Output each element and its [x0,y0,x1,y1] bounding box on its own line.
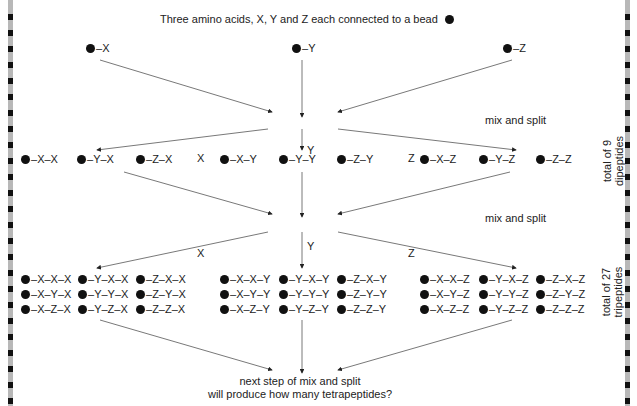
peptide-sequence: X–X [37,153,58,165]
peptide-sequence: X–X–X [37,273,71,285]
bead-icon [420,305,429,314]
bead-icon [86,44,95,53]
tripeptide-total-label: total of 27 tripeptides [600,239,626,345]
bead-icon [536,275,545,284]
bead-icon [479,155,488,164]
bead-icon [292,44,301,53]
bead-icon [78,290,87,299]
mix-split-label-2: mix and split [485,212,546,225]
bead-icon [78,275,87,284]
arrow-split1-x [97,129,268,150]
peptide-sequence: Y–X–Y [295,273,329,285]
bead-icon [337,155,346,164]
arrow-split2-z [338,232,516,268]
start-bead-y: –Y [292,42,315,55]
bead-icon [536,290,545,299]
peptide-item: –Y–Z–Z [479,303,528,316]
peptide-sequence: X–Y–Y [236,288,270,300]
arrows-layer [0,0,637,406]
peptide-sequence: Y–Y–Y [295,288,329,300]
peptide-item: –X–Y–Z [420,288,470,301]
branch-label-z-2: Z [408,247,415,259]
peptide-item: –Z–Z–Z [536,303,585,316]
peptide-sequence: X–Z–Y [236,303,270,315]
dipeptide-total-label: total of 9 dipeptides [601,113,627,209]
total-line-2: dipeptides [613,113,625,209]
peptide-sequence: X–Z [436,153,456,165]
bead-icon [279,290,288,299]
peptide-item: –Y–Y–X [78,288,128,301]
bead-icon [136,305,145,314]
peptide-item: –X–X–Y [220,273,270,286]
diagram-title: Three amino acids, X, Y and Z each conne… [160,13,455,26]
peptide-item: –Y–X–X [78,273,128,286]
peptide-sequence: X–Y–X [37,288,71,300]
amino-acid-label: X [102,42,109,54]
amino-acid-label: Z [519,42,526,54]
bead-icon [337,290,346,299]
peptide-sequence: Y–Y [295,153,316,165]
peptide-sequence: Y–X–X [94,273,128,285]
bead-icon [279,155,288,164]
start-bead-z: –Z [503,42,526,55]
bead-icon [136,275,145,284]
peptide-item: –Z–Z [536,153,572,166]
peptide-sequence: Z–Y–Y [353,288,387,300]
peptide-item: –Y–Y [279,153,316,166]
peptide-sequence: X–Z–Z [436,303,469,315]
peptide-sequence: X–X–Y [236,273,270,285]
bead-icon [136,290,145,299]
arrow-dipep-x-to-mix2 [124,172,272,214]
arrow-z-to-mix1 [338,60,512,112]
peptide-sequence: Z–Z [552,153,572,165]
bead-icon [536,305,545,314]
mix-split-label-1: mix and split [485,114,546,127]
peptide-item: –X–Z–Z [420,303,469,316]
peptide-sequence: Y–X [93,153,114,165]
bead-icon [21,155,30,164]
bead-icon [220,290,229,299]
peptide-sequence: Z–Y–Z [552,288,585,300]
bead-icon [21,275,30,284]
bead-icon [503,44,512,53]
bead-icon [479,290,488,299]
peptide-item: –Z–Y–X [136,288,186,301]
peptide-item: –X–X–X [21,273,71,286]
arrow-split2-x [97,232,268,268]
peptide-sequence: Z–X–X [152,273,186,285]
bead-icon [279,305,288,314]
peptide-item: –Y–Z–X [78,303,128,316]
peptide-item: –Y–X–Z [479,273,529,286]
bead-icon [445,15,454,24]
bead-icon [420,155,429,164]
peptide-sequence: Z–Z–X [152,303,185,315]
bead-icon [420,275,429,284]
peptide-item: –Y–Z [479,153,515,166]
peptide-sequence: Y–Z–X [94,303,128,315]
peptide-sequence: Y–Y–Z [495,288,529,300]
peptide-sequence: X–X–Z [436,273,470,285]
total-line-1: total of 27 [600,239,612,345]
peptide-item: –Y–Z–Y [279,303,329,316]
title-text: Three amino acids, X, Y and Z each conne… [160,13,438,25]
peptide-item: –X–Z–Y [220,303,270,316]
peptide-sequence: Y–Z–Z [495,303,528,315]
question-line-2: will produce how many tetrapeptides? [0,388,600,401]
peptide-item: –Z–X–X [136,273,186,286]
peptide-sequence: Z–Z–Y [353,303,386,315]
diagram-canvas: Three amino acids, X, Y and Z each conne… [0,0,637,406]
peptide-item: –Z–X [136,153,172,166]
peptide-item: –Z–Z–X [136,303,185,316]
bead-icon [21,305,30,314]
peptide-sequence: Z–X–Z [552,273,585,285]
bead-icon [136,155,145,164]
peptide-sequence: X–Z–X [37,303,71,315]
peptide-item: –Z–Z–Y [337,303,386,316]
peptide-sequence: Y–X–Z [495,273,529,285]
arrow-tripep-x-to-next [100,320,272,370]
peptide-item: –Y–X–Y [279,273,329,286]
peptide-item: –Y–Y–Y [279,288,329,301]
peptide-item: –Z–X–Z [536,273,585,286]
peptide-item: –Z–Y–Y [337,288,387,301]
peptide-sequence: Z–X–Y [353,273,387,285]
